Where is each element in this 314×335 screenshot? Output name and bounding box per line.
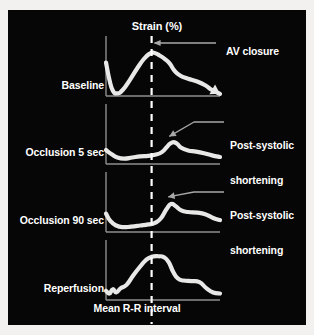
annotation-pss-2-line1: Post-systolic xyxy=(230,210,294,222)
figure-root: Strain (%) Baseline Occlusion 5 sec Occl… xyxy=(0,0,314,335)
strain-curve-3 xyxy=(106,204,220,228)
row-label-baseline: Baseline xyxy=(8,80,104,92)
annotation-av-closure: AV closure xyxy=(226,46,279,58)
plot-title: Strain (%) xyxy=(8,20,306,32)
annotation-pss-1-line2: shortening xyxy=(230,175,294,187)
row-label-occlusion-90-sec: Occlusion 90 sec xyxy=(8,215,104,227)
x-axis-label: Mean R-R interval xyxy=(38,303,236,315)
av-closure-leader-arrow xyxy=(154,40,216,46)
panel-axes-3 xyxy=(106,172,220,232)
pss-leader-arrow-2 xyxy=(168,192,224,199)
pss-leader-arrow-1 xyxy=(169,122,224,136)
figure-panel: Strain (%) Baseline Occlusion 5 sec Occl… xyxy=(8,10,306,325)
panel-axes-4 xyxy=(106,240,220,300)
strain-curve-2 xyxy=(106,142,220,159)
row-label-reperfusion: Reperfusion xyxy=(8,283,104,295)
annotation-pss-1-line1: Post-systolic xyxy=(230,140,294,152)
strain-curve-1 xyxy=(106,53,220,94)
annotation-post-systolic-shortening-2: Post-systolic shortening xyxy=(230,186,294,280)
annotation-pss-2-line2: shortening xyxy=(230,245,294,257)
strain-curve-4 xyxy=(106,256,220,293)
row-label-occlusion-5-sec: Occlusion 5 sec xyxy=(8,147,104,159)
